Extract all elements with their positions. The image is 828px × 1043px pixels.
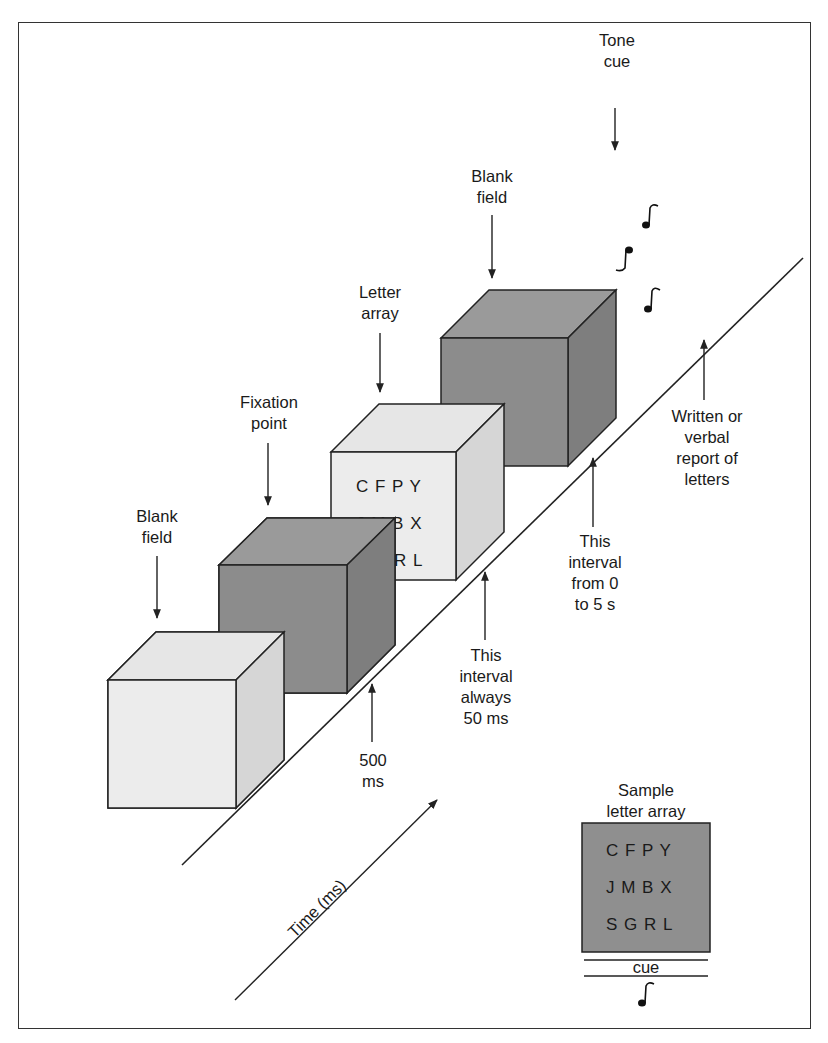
sample-letter-row-3: S G R L <box>606 906 673 943</box>
cue-label: cue <box>616 957 676 977</box>
interval-0-5-label: This interval from 0 to 5 s <box>560 531 630 615</box>
interval-50-label: This interval always 50 ms <box>450 645 522 729</box>
fixation-point-label: Fixation point <box>228 392 310 434</box>
tone-cue-label: Tone cue <box>590 30 644 72</box>
cube-letter-row-1: C F P Y <box>356 468 423 505</box>
sample-cue-note-icon <box>638 983 654 1007</box>
sample-letter-row-2: J M B X <box>606 869 673 906</box>
music-note-icon-3 <box>644 288 660 312</box>
blank-field-2-label: Blank field <box>462 166 522 208</box>
interval-500-label: 500 ms <box>348 750 398 792</box>
letter-array-label: Letter array <box>348 282 412 324</box>
blank-field-1-label: Blank field <box>126 506 188 548</box>
sample-array-title: Sample letter array <box>586 780 706 822</box>
cube-letter-row-3: S G R L <box>356 542 423 579</box>
music-note-icon-2 <box>616 247 633 271</box>
sample-letter-array-text: C F P Y J M B X S G R L <box>606 832 673 943</box>
report-label: Written or verbal report of letters <box>664 406 750 490</box>
cube-letter-row-2: J M B X <box>356 505 423 542</box>
music-note-icon-1 <box>642 205 658 229</box>
sample-letter-row-1: C F P Y <box>606 832 673 869</box>
cube-letter-array-text: C F P Y J M B X S G R L <box>356 468 423 579</box>
cube-blank-field-1 <box>108 632 284 808</box>
